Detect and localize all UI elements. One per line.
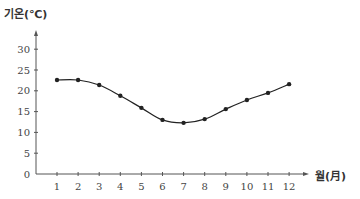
x-tick-label: 5 [138,181,144,192]
data-point-marker [160,118,164,122]
x-tick-label: 12 [283,181,296,192]
x-tick-label: 8 [202,181,208,192]
y-tick-label: 15 [17,106,30,117]
axis-ticks: 051015202530123456789101112 [17,44,295,192]
x-tick-label: 7 [180,181,186,192]
x-tick-label: 6 [159,181,165,192]
data-point-marker [118,94,122,98]
x-tick-label: 2 [75,181,81,192]
x-tick-label: 1 [54,181,60,192]
data-point-marker [76,78,80,82]
temperature-line [57,80,289,123]
y-tick-label: 10 [17,127,30,138]
data-point-marker [55,78,59,82]
data-point-marker [203,117,207,121]
data-point-marker [287,82,291,86]
data-point-marker [266,91,270,95]
y-axis-arrow-icon [34,30,38,36]
data-point-marker [139,106,143,110]
axes [34,30,309,176]
x-tick-label: 4 [117,181,123,192]
y-tick-label: 0 [24,169,30,180]
x-axis-arrow-icon [303,172,309,176]
line-chart: 051015202530123456789101112 [0,0,360,199]
x-tick-label: 10 [241,181,254,192]
y-tick-label: 30 [17,44,30,55]
data-point-marker [245,98,249,102]
x-tick-label: 9 [223,181,229,192]
x-tick-label: 11 [262,181,275,192]
y-tick-label: 5 [24,148,30,159]
y-tick-label: 25 [17,65,30,76]
y-tick-label: 20 [17,85,30,96]
data-series [55,78,291,125]
data-point-marker [181,121,185,125]
x-tick-label: 3 [96,181,102,192]
data-point-marker [224,107,228,111]
data-point-marker [97,83,101,87]
